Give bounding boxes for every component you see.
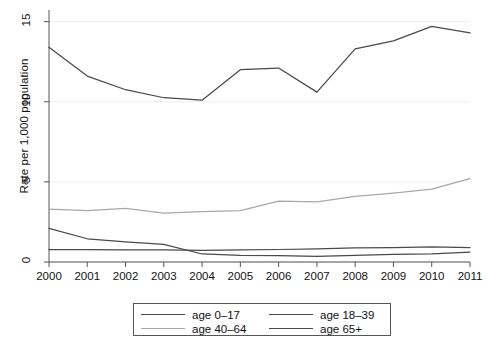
legend-label-age-40-64: age 40–64 [192,323,246,335]
y-tick-marks [44,22,49,262]
x-tick-label-2000: 2000 [29,270,69,282]
series-line-age-0-17 [49,228,470,256]
legend-swatch-age-18-39 [269,314,313,315]
legend-swatch-age-65-plus [269,328,313,329]
x-tick-label-2004: 2004 [182,270,222,282]
series-line-age-65- [49,247,470,251]
x-tick-marks [49,262,470,267]
legend-item-age-18-39: age 18–39 [269,307,374,322]
x-tick-label-2008: 2008 [335,270,375,282]
chart-legend: age 0–17 age 18–39 age 40–64 age 65+ [133,303,391,336]
legend-swatch-age-40-64 [141,328,185,329]
gridlines [49,22,470,262]
y-tick-label-15: 15 [20,9,32,31]
x-tick-label-2002: 2002 [106,270,146,282]
legend-swatch-age-0-17 [141,314,185,315]
x-tick-label-2009: 2009 [373,270,413,282]
legend-label-age-0-17: age 0–17 [192,309,240,321]
y-tick-label-5: 5 [20,169,32,191]
y-tick-label-0: 0 [20,249,32,271]
series-line-age-40-64 [49,179,470,213]
legend-item-age-40-64: age 40–64 [141,321,246,336]
x-tick-label-2006: 2006 [259,270,299,282]
legend-label-age-18-39: age 18–39 [320,309,374,321]
legend-label-age-65-plus: age 65+ [320,323,362,335]
x-tick-label-2010: 2010 [412,270,452,282]
y-tick-label-10: 10 [20,89,32,111]
x-tick-label-2007: 2007 [297,270,337,282]
x-tick-label-2003: 2003 [144,270,184,282]
legend-item-age-0-17: age 0–17 [141,307,240,322]
legend-item-age-65-plus: age 65+ [269,321,362,336]
x-tick-label-2005: 2005 [220,270,260,282]
series-lines [49,26,470,256]
series-line-age-18-39 [49,26,470,100]
x-tick-label-2011: 2011 [450,270,487,282]
x-tick-label-2001: 2001 [67,270,107,282]
